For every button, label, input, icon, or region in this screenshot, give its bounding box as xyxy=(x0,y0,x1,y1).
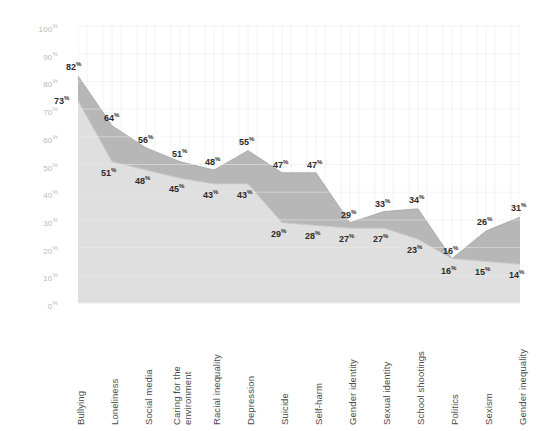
data-point-label: 51% xyxy=(172,148,187,159)
area-chart-plot xyxy=(0,0,557,431)
data-point-label: 33% xyxy=(375,198,390,209)
y-axis-tick: 60% xyxy=(24,132,58,146)
data-point-label: 45% xyxy=(169,183,184,194)
data-point-label: 15% xyxy=(475,266,490,277)
y-axis-tick: 50% xyxy=(24,160,58,174)
data-point-label: 47% xyxy=(273,159,288,170)
y-axis-tick: 0% xyxy=(24,298,58,312)
y-axis-tick: 20% xyxy=(24,243,58,257)
x-axis-category-label: Politics xyxy=(449,394,460,425)
x-axis-category-label: Racial inequality xyxy=(211,354,222,425)
x-axis-category-label: Caring for theenvironment xyxy=(171,366,193,425)
data-point-label: 73% xyxy=(54,95,69,106)
y-axis-tick: 80% xyxy=(24,76,58,90)
data-point-label: 56% xyxy=(138,134,153,145)
y-axis-tick: 70% xyxy=(24,104,58,118)
x-axis-category-label: Gender identity xyxy=(347,359,358,425)
data-point-label: 34% xyxy=(409,194,424,205)
y-axis-tick: 30% xyxy=(24,215,58,229)
data-point-label: 26% xyxy=(477,216,492,227)
x-axis-category-label: Social media xyxy=(143,369,154,425)
data-point-label: 23% xyxy=(407,244,422,255)
data-point-label: 14% xyxy=(509,269,524,280)
data-point-label: 47% xyxy=(307,159,322,170)
x-axis-category-label: Sexual identity xyxy=(381,362,392,425)
data-point-label: 43% xyxy=(203,189,218,200)
x-axis-category-label: Bullying xyxy=(75,391,86,425)
x-axis-category-label: Loneliness xyxy=(109,379,120,425)
x-axis-category-label: School shootings xyxy=(415,351,426,425)
data-point-label: 64% xyxy=(104,112,119,123)
x-axis-category-label: Self-harm xyxy=(313,383,324,425)
data-point-label: 48% xyxy=(135,175,150,186)
x-axis-category-label: Gender inequality xyxy=(517,349,528,425)
data-point-label: 16% xyxy=(441,265,456,276)
y-axis-tick: 90% xyxy=(24,49,58,63)
data-point-label: 16% xyxy=(443,245,458,256)
x-axis-category-label: Depression xyxy=(245,376,256,425)
data-point-label: 48% xyxy=(205,156,220,167)
data-point-label: 82% xyxy=(66,61,81,72)
data-point-label: 29% xyxy=(341,209,356,220)
data-point-label: 43% xyxy=(237,189,252,200)
y-axis-tick: 10% xyxy=(24,270,58,284)
y-axis-tick: 100% xyxy=(24,21,58,35)
data-point-label: 27% xyxy=(373,233,388,244)
x-axis-category-label: Suicide xyxy=(279,393,290,425)
data-point-label: 55% xyxy=(239,136,254,147)
x-axis-category-label: Sexism xyxy=(483,393,494,425)
chart-container: 0%10%20%30%40%50%60%70%80%90%100% Bullyi… xyxy=(0,0,557,431)
data-point-label: 29% xyxy=(271,228,286,239)
data-point-label: 31% xyxy=(511,202,526,213)
data-point-label: 51% xyxy=(101,167,116,178)
y-axis-tick: 40% xyxy=(24,187,58,201)
data-point-label: 27% xyxy=(339,233,354,244)
data-point-label: 28% xyxy=(305,230,320,241)
